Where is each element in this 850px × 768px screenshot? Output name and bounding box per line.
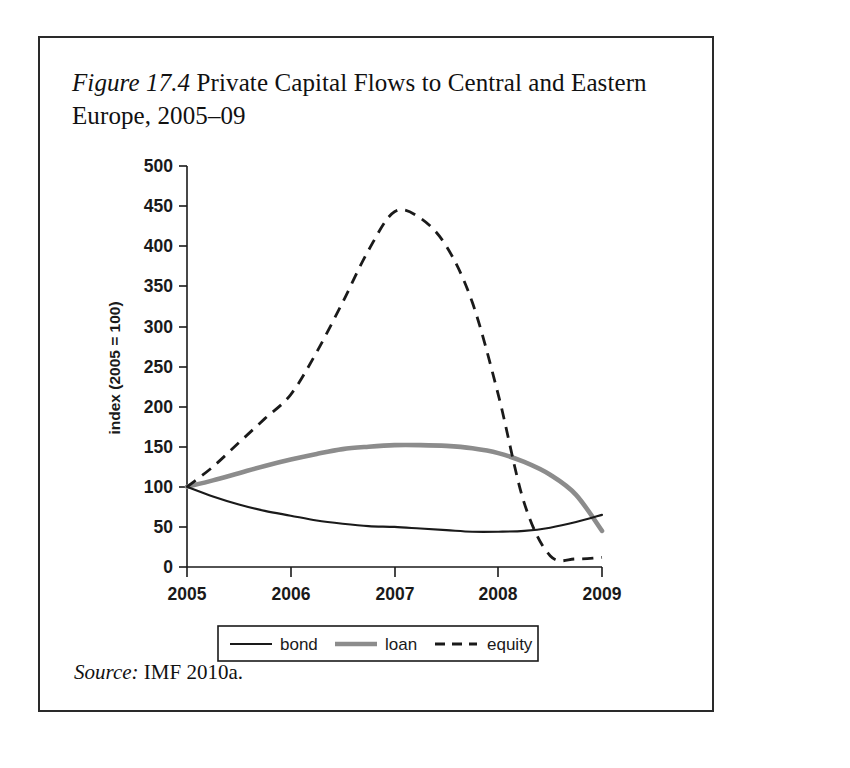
legend-label-bond: bond	[280, 635, 318, 654]
source-note: Source: IMF 2010a.	[74, 660, 243, 685]
figure-frame: Figure 17.4 Private Capital Flows to Cen…	[38, 36, 714, 712]
legend-label-loan: loan	[385, 635, 417, 654]
y-tick-label: 450	[144, 196, 173, 216]
y-axis-title: index (2005 = 100)	[106, 301, 123, 434]
y-tick-label: 150	[144, 437, 173, 457]
series-line-loan	[187, 445, 602, 531]
y-tick-label: 50	[154, 517, 174, 537]
y-tick-label: 500	[144, 156, 173, 176]
x-tick-label: 2008	[479, 584, 518, 604]
y-tick-label: 200	[144, 397, 173, 417]
series-lines	[187, 210, 602, 561]
x-tick-label: 2005	[168, 584, 207, 604]
y-tick-label: 250	[144, 357, 173, 377]
y-axis-ticks	[179, 166, 187, 567]
y-tick-label: 100	[144, 477, 173, 497]
x-tick-label: 2009	[583, 584, 622, 604]
y-axis-tick-labels: 500 450 400 350 300 250 200 150 100 50 0	[144, 156, 173, 577]
chart-svg: 500 450 400 350 300 250 200 150 100 50 0	[40, 38, 716, 714]
y-tick-label: 350	[144, 276, 173, 296]
series-line-bond	[187, 487, 602, 532]
source-text: IMF 2010a.	[144, 660, 243, 684]
source-label: Source:	[74, 660, 139, 684]
chart-legend: bond loan equity	[218, 626, 538, 661]
x-axis-tick-labels: 2005 2006 2007 2008 2009	[168, 584, 622, 604]
y-tick-label: 0	[163, 557, 173, 577]
x-tick-label: 2007	[376, 584, 415, 604]
x-tick-label: 2006	[272, 584, 311, 604]
chart-plot-area: 500 450 400 350 300 250 200 150 100 50 0	[40, 38, 716, 714]
legend-label-equity: equity	[487, 635, 533, 654]
x-axis-ticks	[187, 567, 602, 577]
y-tick-label: 300	[144, 317, 173, 337]
y-tick-label: 400	[144, 236, 173, 256]
